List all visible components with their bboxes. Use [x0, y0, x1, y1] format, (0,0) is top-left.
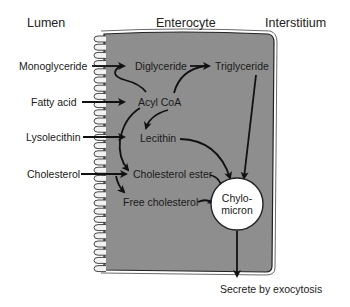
- label-cholesterol-ester: Cholesterol ester: [133, 168, 212, 180]
- label-lysolecithin: Lysolecithin: [26, 131, 80, 143]
- label-fatty-acid: Fatty acid: [31, 96, 77, 108]
- microvilli: [94, 36, 106, 272]
- label-cholesterol: Cholesterol: [27, 168, 80, 180]
- label-chylomicron: Chylo- micron: [211, 192, 263, 216]
- header-lumen: Lumen: [27, 16, 65, 30]
- header-enterocyte: Enterocyte: [156, 16, 216, 30]
- label-diglyceride: Diglyceride: [135, 60, 187, 72]
- label-free-cholesterol: Free cholesterol: [123, 196, 198, 208]
- label-lecithin: Lecithin: [140, 132, 176, 144]
- enterocyte-diagram: [0, 0, 350, 307]
- label-secrete-exocytosis: Secrete by exocytosis: [220, 283, 322, 295]
- label-acyl-coa: Acyl CoA: [138, 96, 181, 108]
- chylomicron-line1: Chylo-: [211, 192, 263, 204]
- label-monoglyceride: Monoglyceride: [19, 60, 87, 72]
- label-triglyceride: Triglyceride: [215, 60, 269, 72]
- chylomicron-line2: micron: [211, 204, 263, 216]
- header-interstitium: Interstitium: [265, 16, 326, 30]
